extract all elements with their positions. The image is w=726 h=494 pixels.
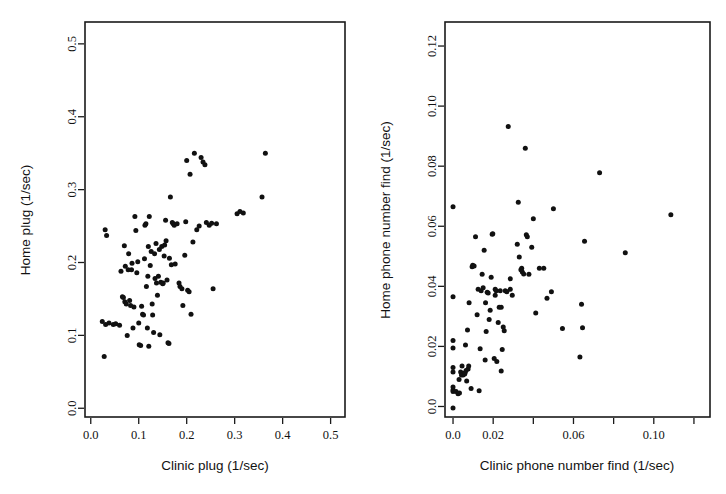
data-point — [183, 219, 188, 224]
data-point — [145, 326, 150, 331]
data-point — [508, 287, 513, 292]
y-tick-label: 0.02 — [425, 335, 439, 357]
data-point — [241, 210, 246, 215]
data-point — [537, 266, 542, 271]
left-plot-frame — [85, 22, 345, 417]
data-point — [486, 290, 491, 295]
data-point — [214, 221, 219, 226]
data-point — [475, 312, 480, 317]
data-point — [154, 241, 159, 246]
data-point — [502, 328, 507, 333]
right-plot-svg: 0.00.020.060.100.00.020.040.060.080.100.… — [363, 0, 726, 494]
data-point — [549, 289, 554, 294]
data-point — [464, 378, 469, 383]
data-point — [190, 240, 195, 245]
y-tick-label: 0.06 — [425, 215, 439, 237]
data-point — [141, 312, 146, 317]
data-point — [199, 155, 204, 160]
left-axis-ticks: 0.00.10.20.30.40.50.00.10.20.30.40.5 — [65, 36, 338, 442]
data-point — [165, 277, 170, 282]
data-point — [451, 369, 456, 374]
data-point — [127, 298, 132, 303]
y-tick-label: 0.1 — [65, 328, 79, 344]
data-point — [526, 272, 531, 277]
data-point — [144, 284, 149, 289]
data-point — [463, 342, 468, 347]
data-point — [130, 261, 135, 266]
data-point — [129, 267, 134, 272]
data-point — [451, 294, 456, 299]
data-point — [516, 200, 521, 205]
data-point — [192, 151, 197, 156]
data-point — [494, 359, 499, 364]
data-point — [529, 245, 534, 250]
data-point — [478, 346, 483, 351]
data-point — [597, 170, 602, 175]
data-point — [457, 390, 462, 395]
data-point — [146, 344, 151, 349]
data-point — [126, 251, 131, 256]
data-point — [451, 384, 456, 389]
data-point — [577, 354, 582, 359]
data-point — [508, 276, 513, 281]
data-point — [102, 354, 107, 359]
data-point — [189, 312, 194, 317]
data-point — [175, 221, 180, 226]
y-tick-label: 0.10 — [425, 95, 439, 117]
data-point — [481, 285, 486, 290]
data-point — [187, 289, 192, 294]
figure-root: 0.00.10.20.30.40.50.00.10.20.30.40.5 Cli… — [0, 0, 726, 494]
data-point — [145, 274, 150, 279]
data-point — [451, 204, 456, 209]
data-point — [150, 312, 155, 317]
right-data-points — [451, 124, 674, 410]
left-y-axis-title: Home plug (1/sec) — [18, 165, 33, 275]
data-point — [147, 214, 152, 219]
x-tick-label: 0.5 — [323, 428, 339, 442]
data-point — [668, 212, 673, 217]
y-tick-label: 0.2 — [65, 255, 79, 271]
data-point — [133, 228, 138, 233]
data-point — [506, 124, 511, 129]
data-point — [168, 194, 173, 199]
data-point — [118, 269, 123, 274]
data-point — [483, 357, 488, 362]
x-tick-label: 0.0 — [445, 428, 461, 442]
data-point — [551, 206, 556, 211]
x-tick-label: 0.10 — [643, 428, 665, 442]
x-tick-label: 0.0 — [83, 428, 99, 442]
data-point — [490, 231, 495, 236]
scatter-panel-right: 0.00.020.060.100.00.020.040.060.080.100.… — [363, 0, 726, 494]
data-point — [122, 243, 127, 248]
x-tick-label: 0.02 — [482, 428, 504, 442]
data-point — [498, 288, 503, 293]
data-point — [104, 233, 109, 238]
data-point — [483, 300, 488, 305]
data-point — [260, 194, 265, 199]
y-tick-label: 0.4 — [65, 108, 79, 124]
data-point — [487, 317, 492, 322]
data-point — [477, 388, 482, 393]
data-point — [457, 377, 462, 382]
data-point — [188, 172, 193, 177]
data-point — [146, 244, 151, 249]
data-point — [541, 266, 546, 271]
data-point — [579, 302, 584, 307]
data-point — [493, 287, 498, 292]
data-point — [164, 238, 169, 243]
data-point — [142, 256, 147, 261]
data-point — [152, 251, 157, 256]
scatter-panel-left: 0.00.10.20.30.40.50.00.10.20.30.40.5 Cli… — [0, 0, 363, 494]
data-point — [465, 327, 470, 332]
data-point — [156, 274, 161, 279]
data-point — [130, 326, 135, 331]
data-point — [500, 347, 505, 352]
x-tick-label: 0.1 — [131, 428, 147, 442]
data-point — [167, 256, 172, 261]
y-tick-label: 0.08 — [425, 155, 439, 177]
data-point — [162, 243, 167, 248]
left-data-points — [100, 151, 268, 359]
data-point — [517, 254, 522, 259]
data-point — [544, 296, 549, 301]
data-point — [197, 224, 202, 229]
